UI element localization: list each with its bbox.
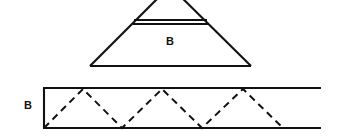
triangle-right-side [170,0,251,66]
triangle-left-side [90,0,170,66]
geometry-figure-canvas: B B [0,0,339,136]
top-shape-label-b: B [166,35,174,47]
bottom-strip-group: B [24,88,321,128]
bottom-shape-label-b: B [24,99,32,111]
figure-svg: B B [0,0,339,136]
strip-dashed-zigzag [44,89,283,128]
top-triangle-group: B [90,0,251,66]
